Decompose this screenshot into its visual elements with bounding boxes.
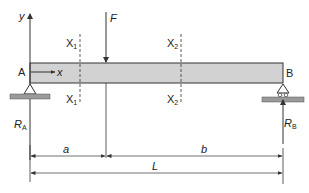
dimension-L-label: L — [152, 160, 158, 172]
section-1-top-label: X1 — [66, 37, 77, 50]
section-2-bottom-label: X2 — [167, 93, 178, 106]
reaction-b-label: RB — [284, 117, 297, 130]
force-label: F — [110, 12, 118, 24]
y-axis-label: y — [18, 10, 26, 22]
x-axis-label: x — [56, 66, 63, 78]
beam-diagram: y x A F X1 X1 X2 X2 RA B RB a b L — [0, 0, 309, 193]
beam — [30, 63, 283, 83]
dimension-b-label: b — [201, 143, 207, 155]
section-1-bottom-label: X1 — [66, 93, 77, 106]
dimension-a-label: a — [63, 143, 69, 155]
reaction-a-label: RA — [14, 118, 27, 131]
point-a-label: A — [18, 66, 26, 78]
point-b-label: B — [286, 67, 293, 79]
section-2-top-label: X2 — [167, 37, 178, 50]
roller-support-b — [262, 84, 304, 102]
pin-support-a — [10, 84, 50, 99]
